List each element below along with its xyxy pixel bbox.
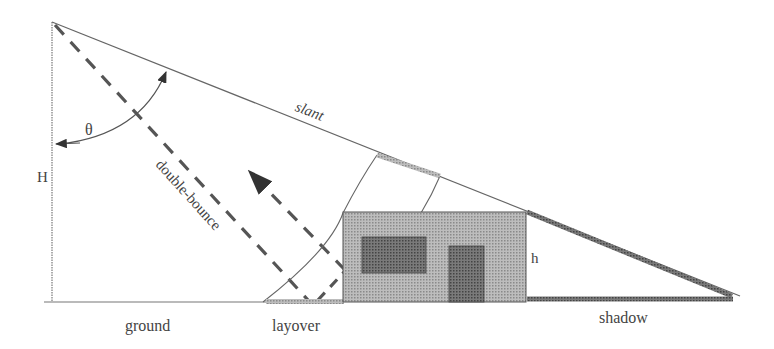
layover-band	[266, 299, 344, 304]
theta-arc	[60, 72, 166, 144]
label-double-bounce: double-bounce	[153, 156, 225, 233]
label-layover: layover	[272, 317, 321, 335]
incident-ray-dashed	[55, 25, 308, 300]
label-H: H	[37, 169, 48, 185]
label-shadow: shadow	[599, 309, 648, 326]
label-ground: ground	[125, 317, 170, 335]
shadow-slant-edge	[527, 212, 732, 296]
double-bounce-reflect	[318, 271, 345, 300]
label-theta: θ	[85, 121, 93, 138]
double-bounce-ray	[250, 172, 345, 270]
diagram-canvas: θ H slant double-bounce h ground layover…	[0, 0, 774, 349]
label-h: h	[531, 250, 539, 266]
building-window	[362, 237, 426, 273]
theta-arc-left-arrow	[56, 143, 80, 144]
building-door	[449, 246, 484, 302]
sar-geometry-diagram: θ H slant double-bounce h ground layover…	[0, 0, 774, 349]
slant-roof-band	[377, 155, 440, 176]
roof-arc	[421, 176, 440, 213]
